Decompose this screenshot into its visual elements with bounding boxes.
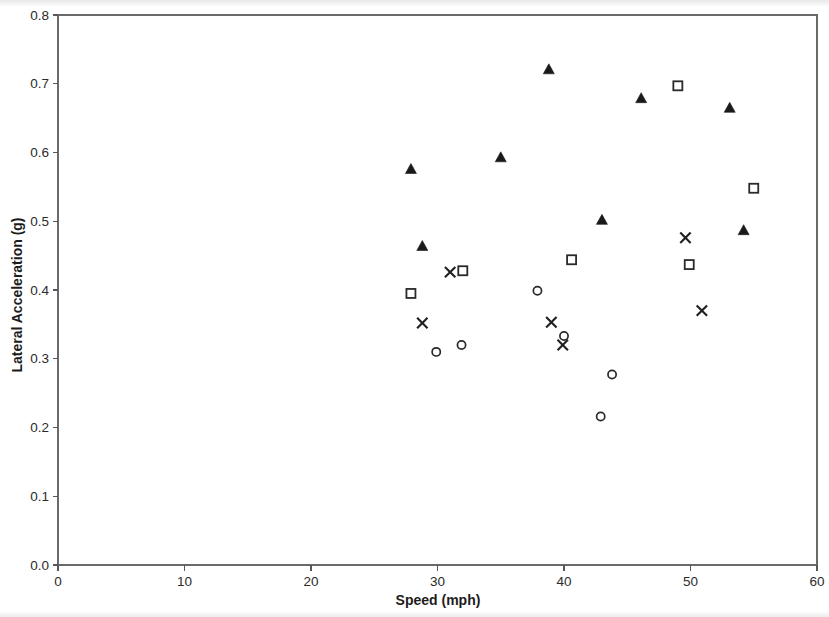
x-axis-title: Speed (mph) (396, 592, 481, 608)
marker-filled-triangle (596, 214, 607, 224)
marker-open-circle (432, 348, 440, 356)
marker-filled-triangle (405, 163, 416, 173)
x-tick-label: 0 (54, 574, 62, 589)
marker-open-circle (560, 332, 568, 340)
scatter-plot-figure: 0102030405060 0.00.10.20.30.40.50.60.70.… (0, 0, 829, 617)
marker-open-circle (608, 370, 616, 378)
x-tick-label: 20 (303, 574, 318, 589)
series-filled-triangle (405, 64, 749, 251)
y-tick-label: 0.8 (30, 8, 49, 23)
x-tick-label: 60 (809, 574, 824, 589)
marker-filled-triangle (495, 152, 506, 162)
marker-open-square (458, 266, 467, 275)
y-tick-label: 0.0 (30, 558, 49, 573)
marker-open-square (673, 81, 682, 90)
x-axis-ticks (58, 565, 817, 571)
x-axis-tick-labels: 0102030405060 (54, 574, 824, 589)
x-tick-label: 30 (430, 574, 445, 589)
y-tick-label: 0.2 (30, 420, 49, 435)
y-tick-label: 0.7 (30, 76, 49, 91)
data-markers (405, 64, 758, 421)
marker-filled-triangle (417, 240, 428, 250)
y-axis-tick-labels: 0.00.10.20.30.40.50.60.70.8 (30, 8, 49, 573)
marker-open-square (567, 255, 576, 264)
x-tick-label: 40 (556, 574, 571, 589)
x-tick-label: 50 (683, 574, 698, 589)
y-tick-label: 0.4 (30, 283, 49, 298)
marker-open-square (406, 289, 415, 298)
marker-open-circle (597, 412, 605, 420)
y-tick-label: 0.6 (30, 145, 49, 160)
y-tick-label: 0.1 (30, 489, 49, 504)
marker-filled-triangle (636, 93, 647, 103)
x-tick-label: 10 (177, 574, 192, 589)
marker-open-circle (533, 287, 541, 295)
y-axis-ticks (53, 15, 58, 565)
marker-open-square (749, 184, 758, 193)
plot-border (58, 15, 817, 565)
y-tick-label: 0.3 (30, 351, 49, 366)
marker-open-square (685, 260, 694, 269)
y-tick-label: 0.5 (30, 214, 49, 229)
marker-filled-triangle (724, 102, 735, 112)
marker-open-circle (457, 341, 465, 349)
plot-frame (58, 15, 817, 565)
marker-filled-triangle (543, 64, 554, 74)
y-axis-title: Lateral Acceleration (g) (9, 217, 25, 372)
series-open-square (406, 81, 758, 298)
marker-filled-triangle (738, 225, 749, 235)
series-open-circle (432, 287, 616, 421)
chart-canvas: 0102030405060 0.00.10.20.30.40.50.60.70.… (0, 0, 829, 617)
